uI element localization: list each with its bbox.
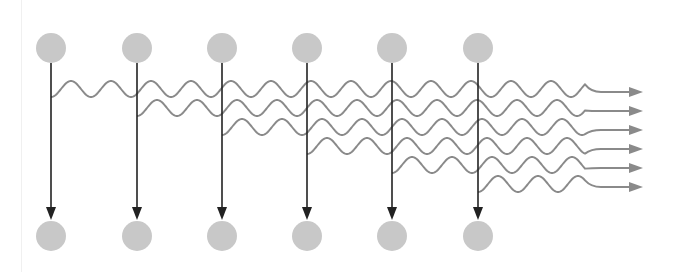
atom-transitions — [46, 63, 483, 220]
arrow-down-icon — [387, 207, 397, 220]
arrow-down-icon — [302, 207, 312, 220]
excited-atom — [377, 33, 407, 63]
photon-wave — [392, 157, 631, 173]
photon-wave — [478, 176, 631, 192]
photon-arrowhead-icon — [629, 125, 643, 135]
arrow-down-icon — [132, 207, 142, 220]
photon-wave — [137, 100, 631, 116]
excited-atom — [207, 33, 237, 63]
atoms — [36, 33, 493, 251]
ground-atom — [292, 221, 322, 251]
ground-atom — [463, 221, 493, 251]
photon-wave — [51, 81, 631, 97]
arrow-down-icon — [473, 207, 483, 220]
ground-atom — [207, 221, 237, 251]
ground-atom — [377, 221, 407, 251]
excited-atom — [292, 33, 322, 63]
diagram-canvas — [0, 0, 681, 272]
photon-arrowhead-icon — [629, 144, 643, 154]
photon-arrowhead-icon — [629, 163, 643, 173]
photon-wave — [307, 138, 631, 154]
photon-wave — [222, 119, 631, 135]
ground-atom — [36, 221, 66, 251]
excited-atom — [36, 33, 66, 63]
photon-arrowhead-icon — [629, 106, 643, 116]
photon-arrowhead-icon — [629, 87, 643, 97]
arrow-down-icon — [46, 207, 56, 220]
photon-arrowhead-icon — [629, 182, 643, 192]
ground-atom — [122, 221, 152, 251]
photon-waves — [51, 81, 643, 192]
excited-atom — [463, 33, 493, 63]
excited-atom — [122, 33, 152, 63]
arrow-down-icon — [217, 207, 227, 220]
